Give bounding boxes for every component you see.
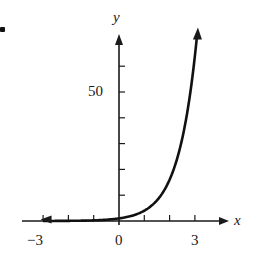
y-axis-arrow-icon	[115, 34, 123, 45]
x-axis-label: x	[234, 213, 241, 228]
y-axis-label: y	[113, 10, 120, 25]
x-tick-label-neg3: −3	[27, 233, 43, 248]
x-axis-arrow-icon	[219, 217, 229, 225]
x-tick-label-0: 0	[115, 233, 123, 248]
y-tick-label-50: 50	[88, 84, 103, 99]
exponential-curve	[43, 37, 197, 221]
curve-left-arrow-icon	[41, 216, 52, 224]
x-tick-label-3: 3	[191, 233, 199, 248]
curve-top-arrow-icon	[193, 28, 202, 40]
